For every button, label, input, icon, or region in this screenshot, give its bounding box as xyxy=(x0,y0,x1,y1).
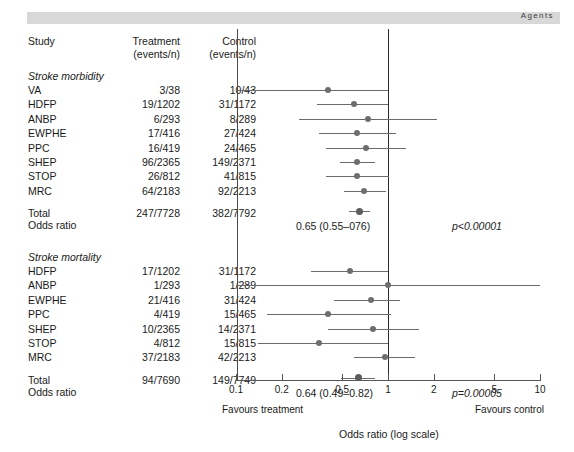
summary-p-value: p<0.00001 xyxy=(452,220,502,232)
odds-ratio-marker xyxy=(365,116,371,122)
x-axis-tick xyxy=(236,374,237,381)
odds-ratio-marker xyxy=(363,145,369,151)
odds-ratio-marker xyxy=(368,297,374,303)
x-axis-tick-label: 5 xyxy=(474,384,514,395)
favours-treatment-label: Favours treatment xyxy=(222,404,303,415)
odds-ratio-marker xyxy=(325,87,331,93)
odds-ratio-marker xyxy=(370,326,376,332)
x-axis-tick xyxy=(388,374,389,381)
odds-ratio-marker xyxy=(361,188,367,194)
confidence-interval-line xyxy=(258,343,388,344)
confidence-interval-line xyxy=(236,90,388,91)
forest-plot-figure: Agents StudyTreatment(events/n)Control(e… xyxy=(0,0,574,452)
x-axis-tick-label: 1 xyxy=(368,384,408,395)
odds-ratio-marker xyxy=(325,311,331,317)
summary-odds-ratio-text: 0.65 (0.55–076) xyxy=(296,220,370,232)
null-effect-line xyxy=(388,29,389,380)
favours-control-label: Favours control xyxy=(475,404,544,415)
x-axis-tick-label: 0.2 xyxy=(262,384,302,395)
plot-left-border xyxy=(237,29,238,380)
x-axis-tick-label: 0.1 xyxy=(216,384,256,395)
pooled-odds-ratio-marker xyxy=(356,208,363,215)
odds-ratio-marker xyxy=(354,173,360,179)
x-axis-tick-label: 10 xyxy=(520,384,560,395)
confidence-interval-line xyxy=(334,300,400,301)
x-axis-tick xyxy=(434,374,435,381)
x-axis-tick xyxy=(342,374,343,381)
x-axis-tick xyxy=(494,374,495,381)
odds-ratio-marker xyxy=(385,282,391,288)
odds-ratio-marker xyxy=(354,159,360,165)
odds-ratio-marker xyxy=(347,268,353,274)
x-axis-tick-label: 0.5 xyxy=(322,384,362,395)
x-axis-caption: Odds ratio (log scale) xyxy=(339,428,439,440)
odds-ratio-marker xyxy=(354,130,360,136)
odds-ratio-marker xyxy=(316,340,322,346)
x-axis-tick-label: 2 xyxy=(414,384,454,395)
x-axis-tick xyxy=(282,374,283,381)
odds-ratio-marker xyxy=(351,101,357,107)
x-axis-tick xyxy=(540,374,541,381)
